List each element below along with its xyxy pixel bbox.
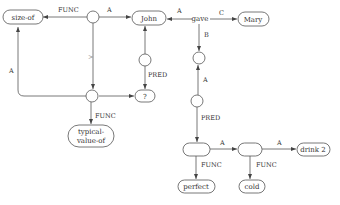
edge-label-a-bottom1: A [219, 139, 225, 147]
edge-label-greater-than: > [88, 53, 93, 61]
label-john: John [140, 15, 158, 23]
label-typical-line2: value-of [76, 137, 107, 145]
edge-a-left [18, 27, 86, 96]
edge-label-func-typical: FUNC [95, 112, 116, 120]
edge-label-b: B [204, 31, 209, 39]
node-pill-2 [238, 143, 262, 156]
node-pill-1 [183, 143, 210, 156]
edge-label-pred-john: PRED [148, 71, 167, 79]
node-circle-right-1 [193, 52, 205, 64]
edge-label-func-perfect: FUNC [201, 161, 222, 169]
edge-label-a-left: A [8, 67, 14, 75]
edge-label-a-gave-john: A [176, 7, 182, 15]
label-drink2: drink 2 [300, 146, 326, 154]
label-question: ? [143, 93, 147, 101]
node-circle-top [87, 11, 99, 23]
node-circle-john-pred [139, 54, 151, 66]
edge-label-c-gave-mary: C [219, 9, 224, 17]
label-size-of: size-of [12, 14, 36, 22]
node-circle-mid [86, 90, 98, 102]
edge-label-func-top: FUNC [58, 6, 79, 14]
edge-label-pred-right: PRED [201, 114, 220, 122]
node-circle-right-2 [191, 95, 203, 107]
edge-label-a-right-up: A [202, 76, 208, 84]
semantic-network-diagram: size-of John gave Mary ? typical- value-… [0, 0, 340, 205]
label-perfect: perfect [183, 183, 209, 191]
clipped-caption-text [0, 199, 340, 205]
label-typical-line1: typical- [78, 128, 105, 136]
label-cold: cold [245, 183, 260, 191]
edge-label-a-bottom2: A [276, 139, 282, 147]
edge-label-a-top: A [106, 6, 112, 14]
label-mary: Mary [244, 16, 263, 24]
edge-label-func-cold: FUNC [256, 161, 277, 169]
label-gave: gave [192, 15, 209, 23]
